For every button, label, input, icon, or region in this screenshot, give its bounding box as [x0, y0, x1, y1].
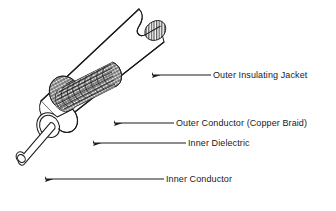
label-inner-dielectric: Inner Dielectric: [188, 138, 250, 148]
label-outer-conductor-copper-braid: Outer Conductor (Copper Braid): [176, 118, 307, 128]
coaxial-cable-illustration: Outer Insulating Jacket Outer Conductor …: [0, 0, 336, 211]
inner-conductor-part: [16, 123, 55, 166]
coaxial-cable-diagram-page: Outer Insulating Jacket Outer Conductor …: [0, 0, 336, 211]
callout-outer-insulating-jacket[interactable]: Outer Insulating Jacket: [152, 70, 308, 80]
label-outer-insulating-jacket: Outer Insulating Jacket: [213, 70, 308, 80]
callout-outer-conductor-copper-braid[interactable]: Outer Conductor (Copper Braid): [114, 118, 307, 128]
callout-inner-dielectric[interactable]: Inner Dielectric: [93, 138, 250, 148]
label-inner-conductor: Inner Conductor: [166, 174, 232, 184]
callout-inner-conductor[interactable]: Inner Conductor: [45, 174, 232, 184]
